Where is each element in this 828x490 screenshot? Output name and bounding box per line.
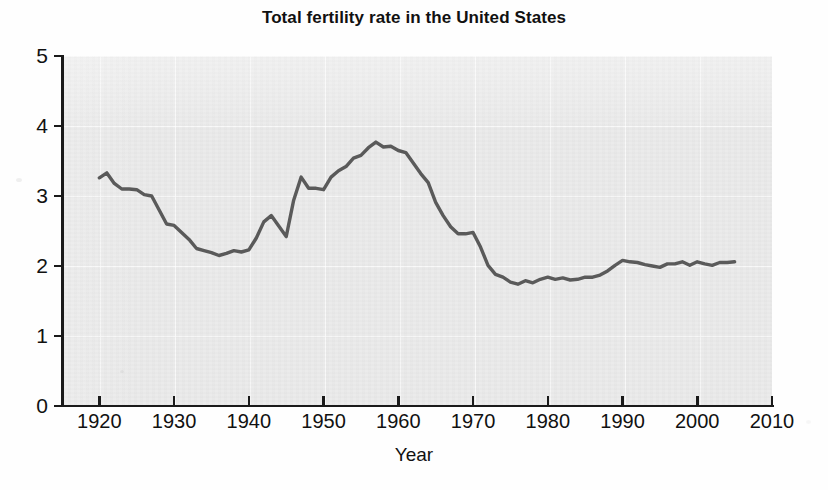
y-tick-label-2: 2 [8, 255, 48, 276]
x-tick-1980 [547, 396, 550, 405]
x-tick-label-2010: 2010 [732, 410, 812, 432]
y-tick-5 [54, 55, 63, 58]
x-tick-label-1960: 1960 [358, 410, 438, 432]
y-tick-label-1: 1 [8, 325, 48, 346]
y-tick-2 [54, 265, 63, 268]
x-tick-label-1950: 1950 [284, 410, 364, 432]
y-axis-line [61, 55, 64, 407]
x-tick-1970 [472, 396, 475, 405]
y-tick-label-3: 3 [8, 185, 48, 206]
x-tick-1960 [397, 396, 400, 405]
figure-container: Total fertility rate in the United State… [0, 0, 828, 490]
x-tick-2000 [696, 396, 699, 405]
y-tick-label-0: 0 [8, 395, 48, 416]
x-axis-line [61, 405, 774, 408]
y-tick-3 [54, 195, 63, 198]
page-title: Total fertility rate in the United State… [0, 8, 828, 28]
y-tick-4 [54, 125, 63, 128]
x-tick-1920 [98, 396, 101, 405]
x-tick-label-2000: 2000 [657, 410, 737, 432]
y-tick-0 [54, 405, 63, 408]
y-tick-label-5: 5 [8, 45, 48, 66]
x-tick-1990 [621, 396, 624, 405]
x-tick-2010 [771, 396, 774, 405]
x-tick-1930 [173, 396, 176, 405]
plot-area [62, 56, 772, 406]
x-axis-title: Year [0, 444, 828, 466]
x-tick-label-1920: 1920 [59, 410, 139, 432]
y-tick-1 [54, 335, 63, 338]
data-line-chart [62, 56, 772, 406]
x-tick-label-1970: 1970 [433, 410, 513, 432]
x-tick-label-1940: 1940 [209, 410, 289, 432]
x-tick-label-1990: 1990 [583, 410, 663, 432]
x-tick-1950 [322, 396, 325, 405]
x-tick-label-1930: 1930 [134, 410, 214, 432]
y-tick-label-4: 4 [8, 115, 48, 136]
x-tick-label-1980: 1980 [508, 410, 588, 432]
x-tick-1940 [248, 396, 251, 405]
series-line-total-fertility-rate [99, 142, 734, 284]
